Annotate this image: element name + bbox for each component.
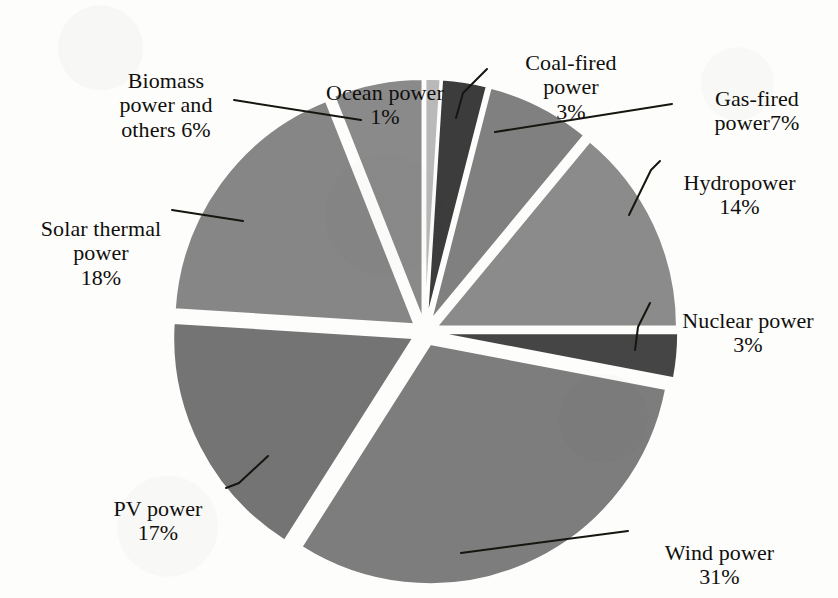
pie-label-pv: PV power 17% — [78, 472, 238, 571]
pie-label-coal: Coal-fired power 3% — [496, 26, 646, 149]
pie-label-ocean: Ocean power 1% — [300, 56, 470, 155]
pie-label-wind-text: Wind power 31% — [632, 541, 807, 590]
pie-label-wind: Wind power 31% — [632, 516, 807, 598]
pie-label-solar-thermal-text: Solar thermal power 18% — [6, 217, 196, 291]
pie-label-nuclear-text: Nuclear power 3% — [658, 309, 838, 358]
pie-label-hydropower-text: Hydropower 14% — [652, 171, 827, 220]
pie-label-biomass-text: Biomass power and others 6% — [76, 69, 256, 143]
pie-chart-figure: Biomass power and others 6% Ocean power … — [0, 0, 838, 598]
pie-label-solar-thermal: Solar thermal power 18% — [6, 192, 196, 315]
pie-label-nuclear: Nuclear power 3% — [658, 284, 838, 383]
pie-label-pv-text: PV power 17% — [78, 497, 238, 546]
pie-label-coal-text: Coal-fired power 3% — [496, 51, 646, 125]
pie-label-hydropower: Hydropower 14% — [652, 146, 827, 245]
pie-label-gas-text: Gas-fired power7% — [682, 87, 832, 136]
pie-label-ocean-text: Ocean power 1% — [300, 81, 470, 130]
pie-label-biomass: Biomass power and others 6% — [76, 44, 256, 167]
